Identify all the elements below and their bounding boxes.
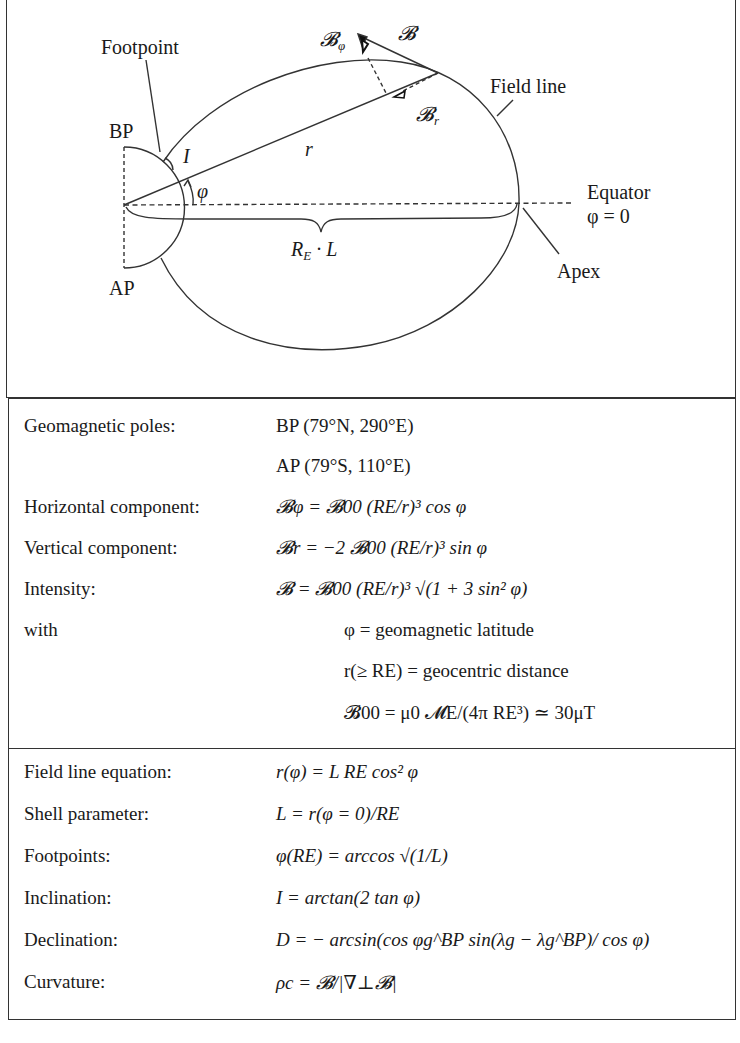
b-r-label: 𝓑r — [416, 103, 440, 128]
table-row: Inclination: I = arctan(2 tan φ) — [9, 887, 735, 927]
table-row: Shell parameter: L = r(φ = 0)/RE — [9, 803, 735, 843]
row-value: L = r(φ = 0)/RE — [276, 803, 399, 825]
row-value: 𝓑φ = 𝓑00 (RE/r)³ cos φ — [276, 496, 466, 518]
row-key: Inclination: — [24, 887, 112, 909]
bp-label: BP — [109, 120, 133, 142]
b-r-arrowhead-icon — [394, 91, 405, 98]
equator-label: Equator — [587, 181, 651, 204]
row-value: I = arctan(2 tan φ) — [276, 887, 420, 909]
row-value: BP (79°N, 290°E) — [276, 415, 413, 437]
b-label: 𝓑 — [398, 22, 420, 44]
table-row: Curvature: ρc = 𝓑/|∇⊥𝓑| — [9, 971, 735, 1011]
table-row: AP (79°S, 110°E) — [9, 455, 735, 495]
section-divider — [9, 748, 735, 749]
radius-line — [124, 73, 438, 205]
row-value: 𝓑00 = μ0 𝓜E/(4π RE³) ≃ 30μT — [344, 701, 595, 724]
row-value: r(≥ RE) = geocentric distance — [344, 660, 569, 682]
row-key: Horizontal component: — [24, 496, 200, 518]
table-row: Intensity: 𝓑 = 𝓑00 (RE/r)³ √(1 + 3 sin² … — [9, 578, 735, 618]
row-value: r(φ) = L RE cos² φ — [276, 761, 418, 783]
field-line-leader — [497, 100, 513, 116]
equator-equation: φ = 0 — [587, 205, 630, 228]
projection-dashed — [368, 58, 387, 95]
table-row: Horizontal component: 𝓑φ = 𝓑00 (RE/r)³ c… — [9, 496, 735, 536]
footpoint-leader — [146, 60, 160, 152]
re-l-label: RE · L — [290, 238, 337, 263]
row-key: Declination: — [24, 929, 118, 951]
row-key: Footpoints: — [24, 845, 111, 867]
row-key: Shell parameter: — [24, 803, 149, 825]
row-value: AP (79°S, 110°E) — [276, 455, 411, 477]
field-line-label: Field line — [490, 75, 566, 97]
row-key: Field line equation: — [24, 761, 172, 783]
row-key: Geomagnetic poles: — [24, 415, 175, 437]
apex-label: Apex — [557, 260, 600, 283]
phi-label: φ — [197, 180, 208, 203]
phi-arrow-icon — [184, 180, 191, 187]
field-line-diagram: Footpoint BP AP I r φ 𝓑φ 𝓑 𝓑r Field line… — [6, 0, 736, 398]
row-value: D = − arcsin(cos φg^BP sin(λg − λg^BP)/ … — [276, 929, 649, 951]
row-key: Vertical component: — [24, 537, 178, 559]
table-row: Footpoints: φ(RE) = arccos √(1/L) — [9, 845, 735, 885]
earth-outline — [124, 147, 184, 268]
table-row: Vertical component: 𝓑r = −2 𝓑00 (RE/r)³ … — [9, 537, 735, 577]
table-row: Field line equation: r(φ) = L RE cos² φ — [9, 761, 735, 801]
table-row: r(≥ RE) = geocentric distance — [9, 660, 735, 700]
row-value: 𝓑 = 𝓑00 (RE/r)³ √(1 + 3 sin² φ) — [276, 578, 527, 600]
table-row: with φ = geomagnetic latitude — [9, 619, 735, 659]
apex-leader — [523, 208, 559, 254]
b-phi-arrowhead-icon — [362, 40, 368, 52]
formula-table: Geomagnetic poles: BP (79°N, 290°E) AP (… — [8, 398, 736, 1020]
row-value: φ(RE) = arccos √(1/L) — [276, 845, 448, 867]
row-key: with — [24, 619, 58, 641]
dipole-diagram-svg: Footpoint BP AP I r φ 𝓑φ 𝓑 𝓑r Field line… — [1, 0, 740, 398]
row-key: Intensity: — [24, 578, 96, 600]
row-key: Curvature: — [24, 971, 105, 993]
table-row: Geomagnetic poles: BP (79°N, 290°E) — [9, 415, 735, 455]
inclination-label: I — [182, 145, 191, 167]
row-value: φ = geomagnetic latitude — [344, 619, 534, 641]
ap-label: AP — [109, 277, 135, 299]
row-value: 𝓑r = −2 𝓑00 (RE/r)³ sin φ — [276, 537, 487, 559]
equator-line — [124, 203, 573, 205]
table-row: 𝓑00 = μ0 𝓜E/(4π RE³) ≃ 30μT — [9, 701, 735, 741]
b-phi-label: 𝓑φ — [320, 28, 345, 53]
r-label: r — [305, 138, 313, 160]
footpoint-label: Footpoint — [101, 36, 179, 59]
table-row: Declination: D = − arcsin(cos φg^BP sin(… — [9, 929, 735, 969]
row-value: ρc = 𝓑/|∇⊥𝓑| — [276, 971, 397, 994]
